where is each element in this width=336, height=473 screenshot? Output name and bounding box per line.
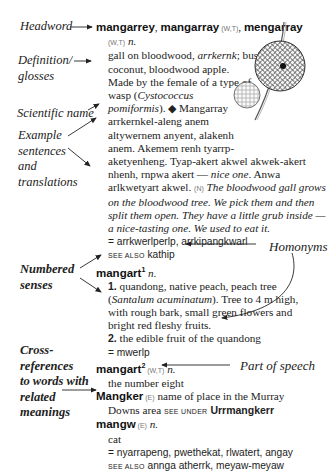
- see-also-link: annga atherrk, meyaw-meyaw: [145, 460, 284, 471]
- see-also-label: see also: [108, 463, 145, 470]
- arrow-sense-2: [80, 278, 101, 292]
- arrow-sense-1: [80, 255, 101, 268]
- bloodwood-gall-illustration: [234, 22, 305, 120]
- definition-line: cat: [108, 433, 326, 446]
- synonyms: = nyarrapeng, pwethekat, rlwatert, angay: [108, 446, 326, 459]
- arrow-translation: [68, 148, 90, 166]
- see-also: see also annga atherrk, meyaw-meyaw: [108, 459, 326, 473]
- arrow-homonym-2: [222, 253, 294, 318]
- arrow-scientific-name: [88, 104, 99, 110]
- arrow-example: [68, 118, 96, 136]
